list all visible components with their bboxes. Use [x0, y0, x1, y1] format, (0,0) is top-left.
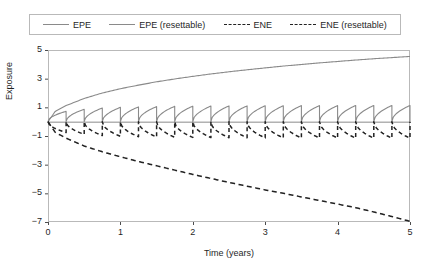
x-tick-label: 2	[183, 228, 203, 237]
y-tick-label: 3	[28, 74, 42, 83]
exposure-chart-figure: EPE EPE (resettable) ENE ENE (resettable…	[0, 0, 422, 269]
x-axis-label: Time (years)	[48, 248, 410, 258]
y-tick-label: 5	[28, 45, 42, 54]
legend-line-swatch-solid-icon	[43, 21, 69, 28]
legend-line-swatch-dashed-icon	[290, 21, 316, 28]
legend-label-epe-resettable: EPE (resettable)	[139, 20, 205, 30]
y-tick-label: 1	[28, 102, 42, 111]
x-tick-label: 3	[255, 228, 275, 237]
x-tick-label: 5	[400, 228, 420, 237]
legend-item-epe: EPE	[43, 20, 91, 30]
legend-label-ene: ENE	[254, 20, 273, 30]
x-tick-label: 1	[110, 228, 130, 237]
plot-canvas	[0, 0, 422, 269]
legend-line-swatch-solid-icon	[109, 21, 135, 28]
legend-label-epe: EPE	[73, 20, 91, 30]
series-epe-resettable-line	[48, 105, 410, 121]
y-tick-label: −1	[28, 131, 42, 140]
x-tick-label: 4	[328, 228, 348, 237]
legend-line-swatch-dashed-icon	[224, 21, 250, 28]
chart-legend: EPE EPE (resettable) ENE ENE (resettable…	[29, 14, 401, 35]
legend-item-ene-resettable: ENE (resettable)	[290, 20, 387, 30]
y-tick-label: −5	[28, 188, 42, 197]
y-tick-label: −7	[28, 217, 42, 226]
y-axis-label: Exposure	[4, 86, 14, 100]
x-tick-label: 0	[38, 228, 58, 237]
legend-label-ene-resettable: ENE (resettable)	[320, 20, 387, 30]
y-tick-label: −3	[28, 160, 42, 169]
legend-item-epe-resettable: EPE (resettable)	[109, 20, 205, 30]
legend-item-ene: ENE	[224, 20, 273, 30]
